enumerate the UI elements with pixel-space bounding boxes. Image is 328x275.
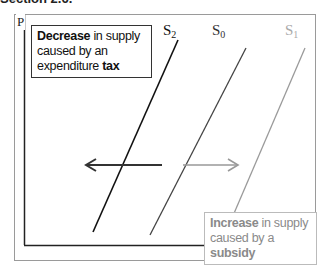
label-s0-sub: 0	[220, 29, 225, 40]
supply-curve-s0	[150, 48, 246, 235]
decrease-annotation-box: Decrease in supply caused by an expendit…	[31, 25, 152, 78]
increase-annotation-box: Increase in supply caused by a subsidy	[204, 212, 317, 265]
y-axis-label: P	[16, 14, 25, 30]
decrease-bold: Decrease	[37, 29, 90, 43]
label-s2-sub: 2	[171, 29, 176, 40]
arrow-right-icon	[183, 159, 238, 171]
tax-bold: tax	[102, 59, 119, 73]
label-s0: S0	[212, 22, 225, 40]
label-s1: S1	[285, 22, 298, 40]
supply-curve-s1	[226, 48, 305, 232]
subsidy-bold: subsidy	[210, 246, 255, 260]
increase-bold: Increase	[210, 216, 258, 230]
label-s1-sub: 1	[293, 29, 298, 40]
label-s2: S2	[163, 22, 176, 40]
